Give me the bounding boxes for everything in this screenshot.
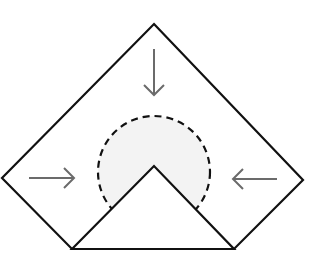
- arrow-left-icon: [233, 169, 277, 189]
- arrow-down-icon: [144, 49, 164, 95]
- arrow-right-icon: [29, 168, 74, 188]
- folding-diagram: [0, 0, 312, 262]
